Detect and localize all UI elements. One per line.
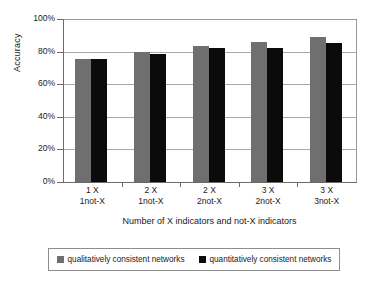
bar-qualitative <box>310 37 326 182</box>
bar-quantitative <box>267 48 283 182</box>
x-axis-tick <box>297 182 298 187</box>
bar-group <box>134 19 166 182</box>
x-label-line2: 2not-X <box>239 196 298 207</box>
bar-quantitative <box>326 43 342 182</box>
y-axis-title: Accuracy <box>12 33 22 72</box>
bar-qualitative <box>75 59 91 182</box>
bar-quantitative <box>150 54 166 182</box>
x-label-line2: 3not-X <box>297 196 356 207</box>
bar-qualitative <box>193 46 209 182</box>
y-tick-label: 40% <box>38 112 55 121</box>
bar-qualitative <box>134 52 150 182</box>
x-label-line1: 3 X <box>239 185 298 196</box>
x-axis-tick <box>122 182 123 187</box>
y-tick-label: 100% <box>33 14 55 23</box>
legend-swatch-icon-qualitative <box>57 256 64 263</box>
legend-item-qualitative: qualitatively consistent networks <box>57 255 185 264</box>
bar-group <box>193 19 225 182</box>
legend-label-quantitative: quantitatively consistent networks <box>210 255 332 264</box>
x-axis-title: Number of X indicators and not-X indicat… <box>63 216 356 226</box>
x-axis-tick-label: 1 X1not-X <box>63 185 122 207</box>
x-axis-tick-label: 2 X2not-X <box>180 185 239 207</box>
x-axis-tick-label: 3 X2not-X <box>239 185 298 207</box>
legend-label-qualitative: qualitatively consistent networks <box>68 255 185 264</box>
x-label-line2: 1not-X <box>63 196 122 207</box>
bar-group <box>75 19 107 182</box>
legend-item-quantitative: quantitatively consistent networks <box>199 255 332 264</box>
bar-quantitative <box>91 59 107 182</box>
x-label-line1: 3 X <box>297 185 356 196</box>
x-label-line2: 1not-X <box>122 196 181 207</box>
bar-chart: Accuracy 0%20%40%60%80%100% 1 X1not-X2 X… <box>0 0 388 285</box>
x-label-line1: 2 X <box>180 185 239 196</box>
bar-group <box>251 19 283 182</box>
legend-swatch-icon-quantitative <box>199 256 206 263</box>
bar-quantitative <box>209 48 225 182</box>
bar-group <box>310 19 342 182</box>
y-tick-label: 0% <box>43 177 55 186</box>
x-axis-tick <box>180 182 181 187</box>
x-label-line1: 1 X <box>63 185 122 196</box>
y-tick-label: 80% <box>38 47 55 56</box>
x-label-line1: 2 X <box>122 185 181 196</box>
bar-qualitative <box>251 42 267 182</box>
legend: qualitatively consistent networks quanti… <box>48 248 340 271</box>
y-tick-label: 60% <box>38 79 55 88</box>
plot-area <box>63 19 357 183</box>
y-tick-label: 20% <box>38 144 55 153</box>
x-label-line2: 2not-X <box>180 196 239 207</box>
x-axis-tick-label: 3 X3not-X <box>297 185 356 207</box>
x-axis-tick <box>239 182 240 187</box>
x-axis-tick-label: 2 X1not-X <box>122 185 181 207</box>
